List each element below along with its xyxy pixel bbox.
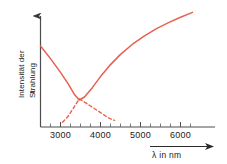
radiation-intensity-chart: Intensität der Strahlung 3000 4000 5000 … bbox=[0, 0, 227, 164]
y-axis-title: Intensität der Strahlung bbox=[0, 8, 34, 120]
x-tick-label-4000: 4000 bbox=[80, 130, 121, 140]
y-axis-title-line2: Strahlung bbox=[28, 63, 37, 98]
y-axis-title-line1: Intensität der bbox=[17, 50, 26, 98]
x-tick-label-5000: 5000 bbox=[120, 130, 161, 140]
x-tick-label-3000: 3000 bbox=[40, 130, 81, 140]
series-curve-dashed-falling bbox=[79, 99, 114, 121]
x-axis-title-label: λ in nm bbox=[152, 150, 182, 160]
series-curve-solid bbox=[41, 12, 193, 100]
series-curve-dashed-rising bbox=[63, 99, 80, 122]
x-tick-label-6000: 6000 bbox=[160, 130, 201, 140]
